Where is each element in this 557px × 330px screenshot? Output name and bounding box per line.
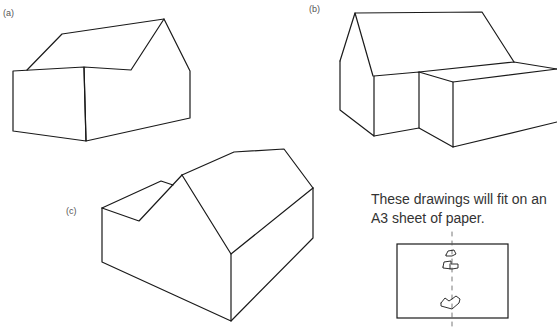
house-drawing-b xyxy=(340,12,557,147)
house-drawing-a xyxy=(13,19,190,141)
caption-line-1: These drawings will fit on an xyxy=(371,190,557,209)
a3-paper-diagram xyxy=(397,232,508,330)
caption-line-2: A3 sheet of paper. xyxy=(371,209,557,228)
caption-text: These drawings will fit on an A3 sheet o… xyxy=(371,190,557,228)
house-drawing-c xyxy=(102,149,313,321)
house-drawings xyxy=(0,0,557,330)
